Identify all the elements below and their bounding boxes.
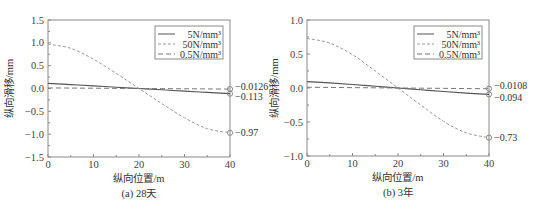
figure-caption: (b) 3年 (383, 186, 413, 199)
y-axis-title: 纵向滑移/mm (268, 58, 280, 117)
x-tick-label: 20 (393, 158, 404, 169)
chart-panel-b: 010203040−1.0−0.50.00.51.0纵向位置/m纵向滑移/mm(… (268, 15, 527, 200)
y-axis-title: 纵向滑移/mm (3, 59, 15, 118)
y-tick-label: 1.0 (290, 15, 303, 26)
chart-panel-a: 010203040−1.5−1.0−0.50.00.51.01.5纵向位置/m纵… (3, 15, 268, 201)
legend: 5N/mm³50N/mm³0.5N/mm³ (155, 26, 223, 60)
x-tick-label: 30 (438, 158, 449, 169)
x-tick-label: 10 (88, 159, 99, 170)
figure-caption: (a) 28天 (122, 188, 158, 200)
end-value-label: −0.113 (235, 91, 263, 102)
y-tick-label: 0.0 (290, 83, 303, 94)
x-axis-title: 纵向位置/m (113, 172, 164, 184)
y-tick-label: 1.0 (31, 37, 44, 48)
end-value-label: −0.0108 (494, 80, 527, 91)
y-tick-label: −0.5 (284, 117, 303, 128)
y-tick-label: 1.5 (31, 15, 44, 26)
end-value-label: −0.0126 (235, 81, 268, 92)
x-tick-label: 0 (304, 158, 309, 169)
y-tick-label: 0.5 (290, 49, 303, 60)
series-line-2 (48, 88, 230, 89)
x-tick-label: 40 (484, 158, 495, 169)
x-tick-label: 30 (179, 159, 190, 170)
y-tick-label: −1.5 (25, 152, 44, 163)
legend-label: 0.5N/mm³ (180, 49, 221, 60)
end-value-label: −0.97 (235, 127, 258, 138)
end-value-label: −0.73 (494, 132, 517, 143)
y-tick-label: −1.0 (25, 129, 44, 140)
figure: 010203040−1.5−1.0−0.50.00.51.01.5纵向位置/m纵… (0, 0, 537, 210)
x-tick-label: 20 (134, 159, 145, 170)
x-axis-title: 纵向位置/m (372, 171, 423, 183)
y-tick-label: 0.5 (31, 60, 44, 71)
legend: 5N/mm³50N/mm³0.5N/mm³ (414, 26, 482, 60)
y-tick-label: 0.0 (31, 83, 44, 94)
y-tick-label: −0.5 (25, 106, 44, 117)
y-tick-label: −1.0 (284, 151, 303, 162)
end-value-label: −0.094 (494, 92, 522, 103)
legend-label: 0.5N/mm³ (439, 49, 480, 60)
x-tick-label: 40 (225, 159, 236, 170)
x-tick-label: 10 (347, 158, 358, 169)
x-tick-label: 0 (45, 159, 50, 170)
